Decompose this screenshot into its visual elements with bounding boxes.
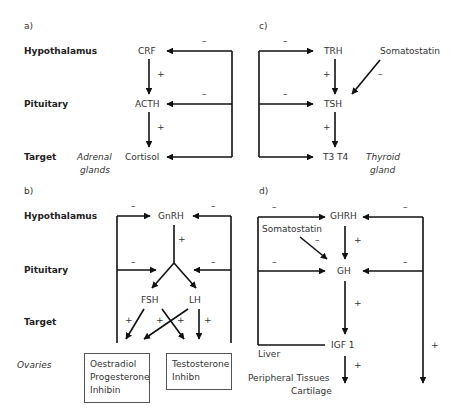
node-acth: ACTH	[135, 100, 160, 109]
sign-minus: –	[272, 203, 277, 212]
sign-minus: –	[283, 90, 288, 99]
node-tsh: TSH	[324, 100, 342, 109]
somatostatin-label-c: Somatostatin	[380, 47, 440, 56]
tissue-glands: glands	[80, 166, 110, 175]
node-t3t4: T3 T4	[323, 153, 348, 162]
testis-hormones-box: Testosterone Inhibn	[166, 353, 232, 390]
sign-plus: +	[323, 70, 331, 79]
somatostatin-label-d: Somatostatin	[262, 225, 322, 234]
sign-minus: –	[202, 90, 207, 99]
level-hypothalamus-a: Hypothalamus	[24, 47, 97, 56]
hormone-inhibn: Inhibn	[172, 371, 226, 384]
level-pituitary-a: Pituitary	[24, 100, 68, 109]
endocrine-axes-diagram: a) Hypothalamus Pituitary Target CRF ACT…	[0, 0, 459, 417]
effector-peripheral-tissues: Peripheral Tissues	[248, 374, 329, 383]
tissue-thyroid: Thyroid	[366, 153, 400, 162]
level-hypothalamus-b: Hypothalamus	[24, 212, 97, 221]
sign-minus: –	[272, 258, 277, 267]
arrow-somatostatin-to-gh	[300, 237, 327, 259]
level-target-a: Target	[24, 153, 56, 162]
level-target-b: Target	[24, 318, 56, 327]
panel-label-c: c)	[259, 22, 267, 31]
sign-plus: +	[323, 123, 331, 132]
sign-minus: –	[211, 202, 216, 211]
sign-plus: +	[125, 316, 133, 325]
effector-cartilage: Cartilage	[291, 387, 332, 396]
hormone-testosterone: Testosterone	[172, 358, 226, 371]
sign-minus: –	[202, 37, 207, 46]
sign-plus: +	[177, 316, 185, 325]
sign-minus: –	[211, 258, 216, 267]
sign-plus: +	[354, 361, 362, 370]
sign-plus: +	[178, 235, 186, 244]
node-ghrh: GHRH	[330, 212, 357, 221]
node-igf1: IGF 1	[331, 341, 354, 350]
sign-plus: +	[156, 316, 164, 325]
node-cortisol: Cortisol	[125, 153, 159, 162]
sign-plus: +	[204, 316, 212, 325]
arrow-to-fsh	[152, 263, 174, 288]
tissue-adrenal: Adrenal	[77, 153, 112, 162]
tissue-ovaries: Ovaries	[17, 361, 51, 370]
ovary-hormones-box: Oestradiol Progesterone Inhibin	[84, 353, 150, 403]
sign-minus: –	[131, 202, 136, 211]
sign-minus: –	[403, 258, 408, 267]
tissue-gland: gland	[370, 166, 395, 175]
hormone-oestradiol: Oestradiol	[90, 358, 144, 371]
hormone-progesterone: Progesterone	[90, 371, 144, 384]
node-gnrh: GnRH	[158, 212, 184, 221]
sign-plus: +	[431, 341, 439, 350]
arrow-to-lh	[174, 263, 196, 288]
panel-label-b: b)	[24, 187, 33, 196]
sign-minus: –	[378, 70, 383, 79]
sign-minus: –	[403, 203, 408, 212]
node-lh: LH	[189, 296, 201, 305]
sign-plus: +	[354, 299, 362, 308]
sign-minus: –	[283, 37, 288, 46]
sign-plus: +	[157, 70, 165, 79]
sign-minus: –	[315, 236, 320, 245]
sign-minus: –	[131, 258, 136, 267]
sign-plus: +	[354, 236, 362, 245]
sign-plus: +	[157, 123, 165, 132]
level-pituitary-b: Pituitary	[24, 266, 68, 275]
panel-label-d: d)	[259, 187, 268, 196]
panel-label-a: a)	[24, 22, 33, 31]
node-crf: CRF	[138, 47, 156, 56]
hormone-inhibin: Inhibin	[90, 384, 144, 397]
node-fsh: FSH	[141, 296, 159, 305]
node-trh: TRH	[324, 47, 343, 56]
node-gh: GH	[337, 267, 351, 276]
organ-liver: Liver	[258, 350, 280, 359]
arrow-somatostatin-to-tsh	[352, 60, 380, 94]
